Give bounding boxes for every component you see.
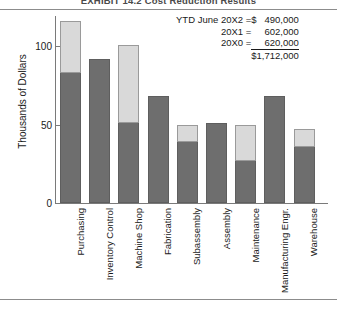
bar-segment-achieved — [177, 142, 198, 203]
x-axis-label: Warehouse — [308, 208, 319, 256]
bar-segment-achieved — [294, 147, 315, 203]
ytd-total-value: $1,712,000 — [251, 49, 299, 61]
y-tick-label: 0 — [24, 198, 52, 209]
ytd-row-value: 490,000 — [260, 14, 299, 26]
exhibit-title: EXHIBIT 14.2 Cost Reduction Results — [0, 0, 337, 4]
ytd-annotation-row: YTD June 20X2 =$490,000 — [176, 14, 299, 26]
y-tick-label: 50 — [24, 119, 52, 130]
bar-segment-achieved — [206, 123, 227, 203]
x-axis-label: Assembly — [221, 208, 232, 249]
ytd-row-value: 620,000 — [260, 37, 299, 49]
bar — [177, 125, 198, 203]
x-axis-label: Inventory Control — [104, 208, 115, 280]
ytd-row-label: YTD June 20X2 = — [176, 14, 251, 26]
ytd-row-value: 602,000 — [260, 26, 299, 38]
x-axis-label: Fabrication — [162, 208, 173, 255]
ytd-row-currency — [251, 37, 260, 49]
bar-segment-remaining — [118, 45, 139, 123]
bar-segment-remaining — [235, 125, 256, 161]
bar-segment-achieved — [148, 96, 169, 203]
x-axis-label: Subassembly — [191, 208, 202, 265]
ytd-annotation-row: 20X0 =620,000 — [176, 37, 299, 49]
ytd-annotation-row: 20X1 =602,000 — [176, 26, 299, 38]
bar — [89, 59, 110, 203]
top-divider-rule — [0, 9, 337, 10]
ytd-annotation-table: YTD June 20X2 =$490,00020X1 =602,00020X0… — [176, 14, 299, 61]
y-tick-label: 100 — [24, 41, 52, 52]
bar-segment-achieved — [60, 73, 81, 203]
x-axis-label: Manufacturing Engr. — [279, 208, 290, 293]
ytd-row-label: 20X0 = — [176, 37, 251, 49]
bar-segment-achieved — [118, 123, 139, 203]
x-axis-label: Purchasing — [75, 208, 86, 256]
bar-segment-remaining — [294, 129, 315, 146]
bar — [235, 125, 256, 203]
x-axis-label: Machine Shop — [133, 208, 144, 269]
bar-segment-remaining — [60, 21, 81, 73]
ytd-total-spacer — [176, 49, 251, 61]
x-axis-baseline — [56, 203, 328, 204]
bar — [60, 21, 81, 203]
x-axis-label: Maintenance — [250, 208, 261, 262]
ytd-row-label: 20X1 = — [176, 26, 251, 38]
ytd-row-currency — [251, 26, 260, 38]
bar-segment-remaining — [177, 125, 198, 142]
chart-figure: EXHIBIT 14.2 Cost Reduction Results Thou… — [0, 0, 337, 323]
ytd-row-currency: $ — [251, 14, 260, 26]
ytd-annotation-total-row: $1,712,000 — [176, 49, 299, 61]
bar — [264, 96, 285, 203]
bar — [206, 123, 227, 203]
bar — [148, 96, 169, 203]
ytd-annotation-block: YTD June 20X2 =$490,00020X1 =602,00020X0… — [176, 14, 299, 61]
bar-segment-achieved — [235, 161, 256, 203]
bar-segment-achieved — [264, 96, 285, 203]
bar — [294, 129, 315, 203]
bottom-divider-rule — [0, 299, 337, 300]
bar — [118, 45, 139, 203]
bar-segment-achieved — [89, 59, 110, 203]
